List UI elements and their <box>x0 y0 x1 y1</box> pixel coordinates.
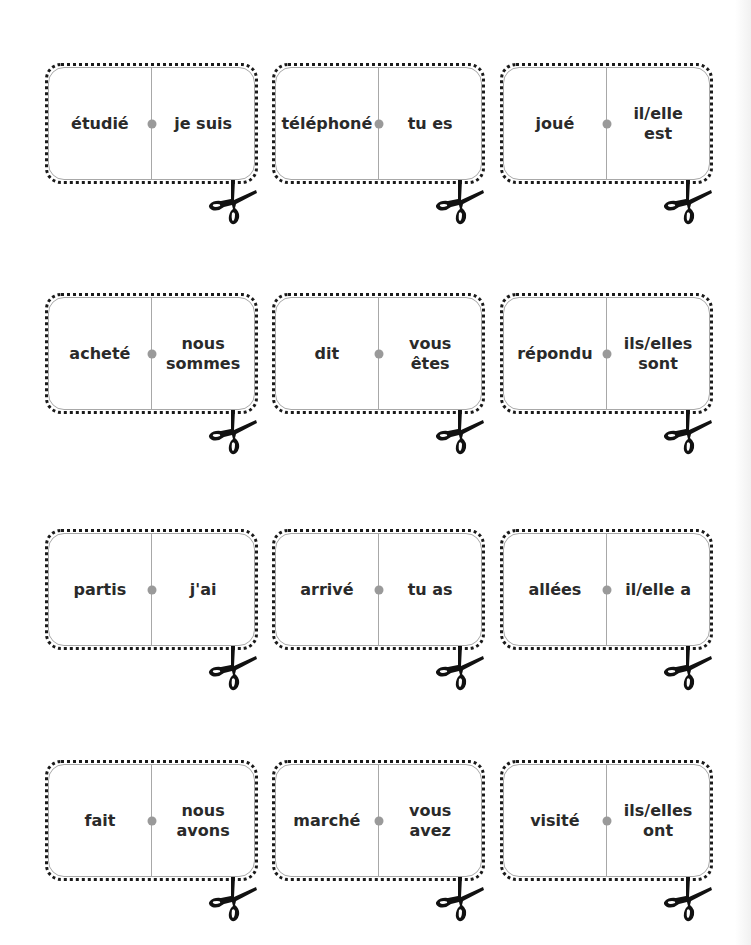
pip-dot <box>602 349 611 358</box>
domino-divider <box>378 298 380 409</box>
domino-card: répondu ils/elles sont <box>500 293 713 414</box>
domino-card: arrivé tu as <box>272 529 485 650</box>
domino-left: dit <box>276 298 378 409</box>
pip-dot <box>147 349 156 358</box>
scissors-icon <box>661 646 713 692</box>
scissors-icon <box>206 180 258 226</box>
domino-face: dit vous êtes <box>275 297 482 410</box>
scissors-icon <box>433 646 485 692</box>
domino-card: étudié je suis <box>45 63 258 184</box>
domino-face: arrivé tu as <box>275 533 482 646</box>
domino-right: tu es <box>379 68 481 179</box>
domino-face: allées il/elle a <box>503 533 710 646</box>
pip-dot <box>374 349 383 358</box>
domino-right: j'ai <box>152 534 254 645</box>
pip-dot <box>602 119 611 128</box>
domino-right: vous avez <box>379 765 481 876</box>
domino-right: je suis <box>152 68 254 179</box>
domino-face: visité ils/elles ont <box>503 764 710 877</box>
domino-face: joué il/elle est <box>503 67 710 180</box>
domino-face: répondu ils/elles sont <box>503 297 710 410</box>
scissors-icon <box>433 410 485 456</box>
domino-card: dit vous êtes <box>272 293 485 414</box>
domino-divider <box>606 298 608 409</box>
domino-divider <box>151 68 153 179</box>
domino-card: partis j'ai <box>45 529 258 650</box>
domino-card: allées il/elle a <box>500 529 713 650</box>
domino-card: fait nous avons <box>45 760 258 881</box>
pip-dot <box>147 816 156 825</box>
domino-left: acheté <box>49 298 151 409</box>
domino-left: marché <box>276 765 378 876</box>
page-edge-shadow <box>735 0 751 945</box>
scissors-icon <box>433 877 485 923</box>
pip-dot <box>602 585 611 594</box>
domino-card: téléphoné tu es <box>272 63 485 184</box>
domino-right: vous êtes <box>379 298 481 409</box>
pip-dot <box>374 585 383 594</box>
domino-right: ils/elles ont <box>607 765 709 876</box>
domino-left: partis <box>49 534 151 645</box>
scissors-icon <box>661 877 713 923</box>
domino-divider <box>151 534 153 645</box>
domino-left: joué <box>504 68 606 179</box>
pip-dot <box>602 816 611 825</box>
scissors-icon <box>661 180 713 226</box>
domino-left: étudié <box>49 68 151 179</box>
domino-left: répondu <box>504 298 606 409</box>
pip-dot <box>147 585 156 594</box>
domino-face: marché vous avez <box>275 764 482 877</box>
domino-right: il/elle a <box>607 534 709 645</box>
domino-divider <box>378 534 380 645</box>
domino-card: marché vous avez <box>272 760 485 881</box>
domino-left: fait <box>49 765 151 876</box>
domino-card: visité ils/elles ont <box>500 760 713 881</box>
domino-right: ils/elles sont <box>607 298 709 409</box>
pip-dot <box>374 119 383 128</box>
domino-divider <box>606 765 608 876</box>
scissors-icon <box>433 180 485 226</box>
domino-left: téléphoné <box>276 68 378 179</box>
domino-right: nous avons <box>152 765 254 876</box>
domino-card: joué il/elle est <box>500 63 713 184</box>
scissors-icon <box>206 877 258 923</box>
scissors-icon <box>661 410 713 456</box>
domino-divider <box>151 765 153 876</box>
domino-card: acheté nous sommes <box>45 293 258 414</box>
domino-divider <box>606 68 608 179</box>
domino-left: allées <box>504 534 606 645</box>
domino-face: partis j'ai <box>48 533 255 646</box>
domino-face: étudié je suis <box>48 67 255 180</box>
domino-right: nous sommes <box>152 298 254 409</box>
scissors-icon <box>206 646 258 692</box>
domino-left: visité <box>504 765 606 876</box>
domino-divider <box>378 68 380 179</box>
domino-divider <box>151 298 153 409</box>
scissors-icon <box>206 410 258 456</box>
domino-divider <box>378 765 380 876</box>
domino-divider <box>606 534 608 645</box>
pip-dot <box>374 816 383 825</box>
domino-right: il/elle est <box>607 68 709 179</box>
domino-face: acheté nous sommes <box>48 297 255 410</box>
domino-face: fait nous avons <box>48 764 255 877</box>
domino-face: téléphoné tu es <box>275 67 482 180</box>
pip-dot <box>147 119 156 128</box>
domino-right: tu as <box>379 534 481 645</box>
domino-left: arrivé <box>276 534 378 645</box>
